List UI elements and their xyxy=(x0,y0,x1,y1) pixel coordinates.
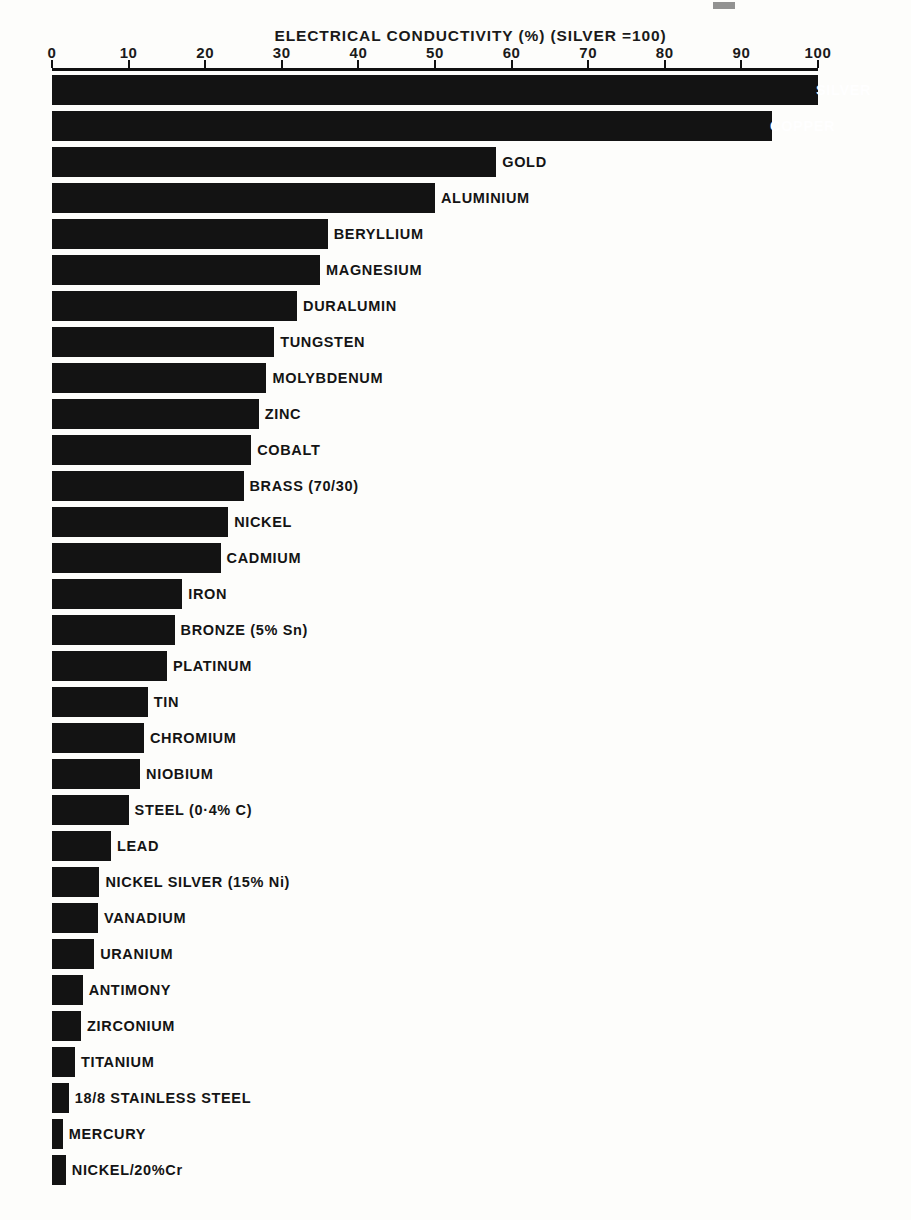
bar-label: NIOBIUM xyxy=(146,766,213,782)
bar-label: BERYLLIUM xyxy=(334,226,424,242)
bar xyxy=(52,507,228,537)
bar-row: NICKEL/20%Cr xyxy=(0,1155,911,1185)
bar xyxy=(52,255,320,285)
bar xyxy=(52,1083,69,1113)
bar-row: CHROMIUM xyxy=(0,723,911,753)
bar-label: NICKEL SILVER (15% Ni) xyxy=(105,874,290,890)
bar-label: STEEL (0·4% C) xyxy=(135,802,253,818)
bar xyxy=(52,147,496,177)
x-axis-tick-label-40: 40 xyxy=(349,44,367,61)
bar-label: LEAD xyxy=(117,838,159,854)
bar-row: LEAD xyxy=(0,831,911,861)
x-axis-tick-mark-80 xyxy=(664,60,666,68)
bar xyxy=(52,903,98,933)
bar-label: NICKEL/20%Cr xyxy=(72,1162,183,1178)
x-axis-tick-label-60: 60 xyxy=(503,44,521,61)
bar-row: URANIUM xyxy=(0,939,911,969)
bar-label: COBALT xyxy=(257,442,320,458)
x-axis-tick-mark-50 xyxy=(434,60,436,68)
bar xyxy=(52,615,175,645)
bar xyxy=(52,327,274,357)
bar-label: ZIRCONIUM xyxy=(87,1018,175,1034)
bar-row: TIN xyxy=(0,687,911,717)
bar xyxy=(52,1155,66,1185)
bar-label: IRON xyxy=(188,586,227,602)
scan-artifact xyxy=(713,2,735,9)
bar-row: BRASS (70/30) xyxy=(0,471,911,501)
bar-label: MERCURY xyxy=(69,1126,146,1142)
bar-label: NICKEL xyxy=(234,514,292,530)
bar-label: GOLD xyxy=(502,154,547,170)
bar-label: TIN xyxy=(154,694,179,710)
x-axis-tick-label-80: 80 xyxy=(656,44,674,61)
bar-row: MAGNESIUM xyxy=(0,255,911,285)
bar xyxy=(52,867,99,897)
bar-row: ANTIMONY xyxy=(0,975,911,1005)
x-axis-tick-label-90: 90 xyxy=(732,44,750,61)
bar xyxy=(52,831,111,861)
bar-row: NIOBIUM xyxy=(0,759,911,789)
chart-title: ELECTRICAL CONDUCTIVITY (%) (SILVER =100… xyxy=(0,27,911,45)
bar-row: BRONZE (5% Sn) xyxy=(0,615,911,645)
x-axis-tick-label-20: 20 xyxy=(196,44,214,61)
bar-label: COPPER xyxy=(770,118,835,134)
bar xyxy=(52,399,259,429)
bar xyxy=(52,939,94,969)
bar-row: TITANIUM xyxy=(0,1047,911,1077)
bar xyxy=(52,471,244,501)
bar-label: SILVER xyxy=(816,82,871,98)
bar-row: GOLD xyxy=(0,147,911,177)
bar-row: SILVER xyxy=(0,75,911,105)
bar-row: COBALT xyxy=(0,435,911,465)
bar-row: NICKEL SILVER (15% Ni) xyxy=(0,867,911,897)
bar-row: ZINC xyxy=(0,399,911,429)
x-axis-tick-mark-90 xyxy=(740,60,742,68)
bar-row: TUNGSTEN xyxy=(0,327,911,357)
bar xyxy=(52,1119,63,1149)
bar-row: STEEL (0·4% C) xyxy=(0,795,911,825)
bar-label: PLATINUM xyxy=(173,658,252,674)
bar-label: ZINC xyxy=(265,406,301,422)
bar-label: VANADIUM xyxy=(104,910,186,926)
bar-row: NICKEL xyxy=(0,507,911,537)
conductivity-bar-chart: ELECTRICAL CONDUCTIVITY (%) (SILVER =100… xyxy=(0,0,911,1220)
x-axis-tick-label-10: 10 xyxy=(120,44,138,61)
bar xyxy=(52,219,328,249)
bar xyxy=(52,975,83,1005)
bar-label: BRONZE (5% Sn) xyxy=(181,622,309,638)
bar xyxy=(52,723,144,753)
bar-label: DURALUMIN xyxy=(303,298,397,314)
bar xyxy=(52,687,148,717)
bar-label: ANTIMONY xyxy=(89,982,172,998)
bar-row: IRON xyxy=(0,579,911,609)
x-axis-tick-mark-20 xyxy=(204,60,206,68)
bar xyxy=(52,363,266,393)
bar-label: CHROMIUM xyxy=(150,730,237,746)
x-axis-tick-label-30: 30 xyxy=(273,44,291,61)
bar-label: ALUMINIUM xyxy=(441,190,530,206)
bar-row: ALUMINIUM xyxy=(0,183,911,213)
bar xyxy=(52,795,129,825)
bar-row: COPPER xyxy=(0,111,911,141)
bar xyxy=(52,75,818,105)
x-axis-tick-mark-100 xyxy=(817,60,819,68)
bar-label: TITANIUM xyxy=(81,1054,154,1070)
bar-label: TUNGSTEN xyxy=(280,334,365,350)
x-axis-tick-mark-10 xyxy=(128,60,130,68)
bar-row: PLATINUM xyxy=(0,651,911,681)
bar xyxy=(52,435,251,465)
bar-row: ZIRCONIUM xyxy=(0,1011,911,1041)
bars-container: SILVERCOPPERGOLDALUMINIUMBERYLLIUMMAGNES… xyxy=(0,75,911,1190)
bar-label: MAGNESIUM xyxy=(326,262,422,278)
bar-label: CADMIUM xyxy=(227,550,302,566)
x-axis-tick-mark-40 xyxy=(357,60,359,68)
x-axis-tick-label-0: 0 xyxy=(48,44,57,61)
bar xyxy=(52,1011,81,1041)
bar-row: MERCURY xyxy=(0,1119,911,1149)
bar xyxy=(52,651,167,681)
bar-label: BRASS (70/30) xyxy=(250,478,359,494)
bar-row: BERYLLIUM xyxy=(0,219,911,249)
bar xyxy=(52,759,140,789)
bar-label: URANIUM xyxy=(100,946,173,962)
bar xyxy=(52,543,221,573)
